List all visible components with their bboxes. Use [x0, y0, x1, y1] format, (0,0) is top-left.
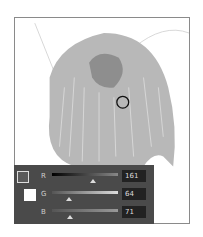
channel-label-r: R [41, 172, 46, 180]
slider-r-track[interactable] [52, 173, 118, 176]
slider-g-track[interactable] [52, 191, 118, 194]
background-color-swatch[interactable] [24, 189, 36, 201]
foreground-color-swatch[interactable] [17, 171, 29, 183]
slider-b-thumb[interactable] [67, 215, 73, 219]
value-g-field[interactable]: 64 [122, 188, 146, 200]
channel-label-g: G [41, 190, 46, 198]
slider-b-track[interactable] [52, 209, 118, 212]
value-b-field[interactable]: 71 [122, 206, 146, 218]
slider-g-thumb[interactable] [66, 197, 72, 201]
slider-r-thumb[interactable] [90, 179, 96, 183]
channel-label-b: B [41, 208, 46, 216]
value-r-field[interactable]: 161 [122, 170, 146, 182]
